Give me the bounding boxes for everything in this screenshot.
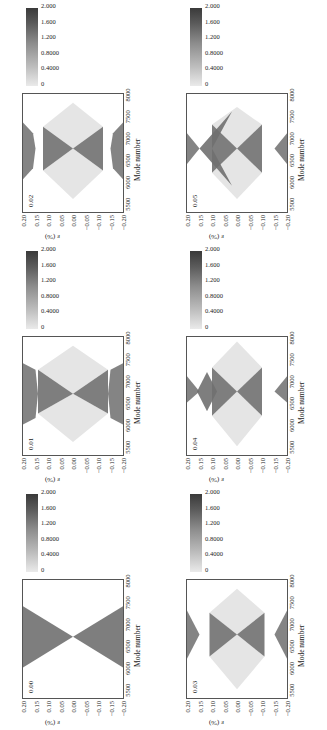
colorbar-tick: 0 (41, 80, 44, 87)
chart-panel: ε (%) 0.200.150.100.050.00−0.05−0.10−0.1… (164, 0, 327, 243)
x-tick: 6500 (124, 397, 131, 410)
colorbar-tick: 1.200 (41, 519, 56, 526)
y-tick: −0.05 (247, 701, 254, 716)
colorbar-tick: 1.200 (41, 33, 56, 40)
colorbar (26, 8, 38, 86)
colorbar-tick: 1.600 (205, 504, 220, 511)
panel-label: 0.00 (27, 681, 35, 693)
colorbar-tick: 0.8000 (205, 535, 223, 542)
heatmap-plot-area (22, 93, 124, 213)
y-tick: 0.05 (58, 458, 65, 469)
colorbar-tick: 2.000 (205, 245, 220, 252)
colorbar-ticks: 00.40000.80001.2001.6002.000 (205, 6, 265, 86)
y-tick: −0.20 (120, 215, 127, 230)
x-tick: 7500 (288, 596, 295, 609)
heatmap-plot-area (22, 579, 124, 699)
y-axis-ticks: 0.200.150.100.050.00−0.05−0.10−0.15−0.20 (20, 458, 124, 478)
y-tick: −0.10 (95, 215, 102, 230)
x-tick: 5500 (124, 441, 131, 454)
x-axis-label: Mode number (133, 382, 142, 424)
x-tick: 6000 (288, 176, 295, 189)
y-axis-ticks: 0.200.150.100.050.00−0.05−0.10−0.15−0.20 (184, 215, 288, 235)
y-axis-ticks: 0.200.150.100.050.00−0.05−0.10−0.15−0.20 (20, 215, 124, 235)
colorbar-tick: 0 (205, 80, 208, 87)
y-tick: 0.20 (184, 701, 191, 712)
heatmap-plot-area (186, 336, 288, 456)
y-tick: −0.05 (247, 458, 254, 473)
y-tick: −0.10 (259, 701, 266, 716)
x-tick: 7000 (288, 132, 295, 145)
y-tick: 0.20 (184, 215, 191, 226)
y-tick: 0.15 (33, 458, 40, 469)
y-tick: −0.10 (95, 701, 102, 716)
y-tick: 0.10 (209, 215, 216, 226)
colorbar-tick: 0.4000 (41, 64, 59, 71)
chart-panel: ε (%) 0.200.150.100.050.00−0.05−0.10−0.1… (0, 0, 163, 243)
colorbar-tick: 1.600 (41, 261, 56, 268)
y-tick: −0.15 (272, 701, 279, 716)
y-axis-ticks: 0.200.150.100.050.00−0.05−0.10−0.15−0.20 (184, 458, 288, 478)
y-tick: 0.15 (197, 215, 204, 226)
y-tick: 0.20 (20, 701, 27, 712)
colorbar-ticks: 00.40000.80001.2001.6002.000 (205, 249, 265, 329)
x-tick: 6000 (288, 419, 295, 432)
colorbar-tick: 0 (205, 566, 208, 573)
panel-label: 0.01 (27, 438, 35, 450)
y-tick: 0.10 (209, 458, 216, 469)
heatmap-plot-area (186, 93, 288, 213)
y-tick: 0.15 (197, 701, 204, 712)
x-tick: 5500 (124, 198, 131, 211)
y-tick: 0.00 (234, 701, 241, 712)
y-tick: −0.15 (108, 458, 115, 473)
colorbar-ticks: 00.40000.80001.2001.6002.000 (205, 492, 265, 572)
y-tick: −0.10 (259, 215, 266, 230)
colorbar-tick: 2.000 (41, 488, 56, 495)
x-tick: 6000 (124, 176, 131, 189)
x-tick: 7500 (124, 353, 131, 366)
x-tick: 7500 (288, 353, 295, 366)
colorbar-tick: 0.4000 (41, 550, 59, 557)
colorbar-tick: 1.600 (41, 18, 56, 25)
y-tick: 0.10 (45, 215, 52, 226)
colorbar-tick: 2.000 (41, 2, 56, 9)
chart-panel: ε (%) 0.200.150.100.050.00−0.05−0.10−0.1… (0, 486, 163, 729)
y-tick: −0.20 (284, 701, 291, 716)
chart-panel: ε (%) 0.200.150.100.050.00−0.05−0.10−0.1… (0, 243, 163, 486)
x-tick: 6500 (288, 154, 295, 167)
x-tick: 5500 (288, 441, 295, 454)
y-tick: 0.20 (20, 458, 27, 469)
y-tick: −0.15 (272, 215, 279, 230)
colorbar-tick: 0.4000 (205, 64, 223, 71)
colorbar-tick: 0.4000 (205, 307, 223, 314)
y-tick: 0.10 (45, 458, 52, 469)
y-tick: −0.20 (284, 215, 291, 230)
x-tick: 5500 (288, 684, 295, 697)
x-tick: 7000 (288, 375, 295, 388)
x-tick: 6000 (124, 419, 131, 432)
y-tick: 0.05 (222, 458, 229, 469)
y-axis-ticks: 0.200.150.100.050.00−0.05−0.10−0.15−0.20 (184, 701, 288, 721)
x-axis-label: Mode number (133, 625, 142, 667)
panel-label: 0.03 (191, 681, 199, 693)
y-tick: 0.20 (184, 458, 191, 469)
y-tick: 0.15 (33, 701, 40, 712)
x-tick: 7500 (124, 110, 131, 123)
colorbar (190, 251, 202, 329)
x-tick: 7500 (124, 596, 131, 609)
panel-label: 0.04 (191, 438, 199, 450)
x-tick: 5500 (124, 684, 131, 697)
colorbar-tick: 1.200 (205, 33, 220, 40)
x-tick: 6500 (124, 640, 131, 653)
y-tick: −0.05 (247, 215, 254, 230)
colorbar-tick: 2.000 (205, 488, 220, 495)
x-tick: 7000 (124, 618, 131, 631)
x-axis-label: Mode number (297, 625, 306, 667)
heatmap-plot-area (22, 336, 124, 456)
colorbar-tick: 0 (41, 323, 44, 330)
x-tick: 6500 (288, 397, 295, 410)
y-tick: 0.00 (234, 215, 241, 226)
y-tick: 0.15 (33, 215, 40, 226)
colorbar (190, 494, 202, 572)
colorbar-ticks: 00.40000.80001.2001.6002.000 (41, 249, 101, 329)
y-tick: −0.20 (120, 701, 127, 716)
